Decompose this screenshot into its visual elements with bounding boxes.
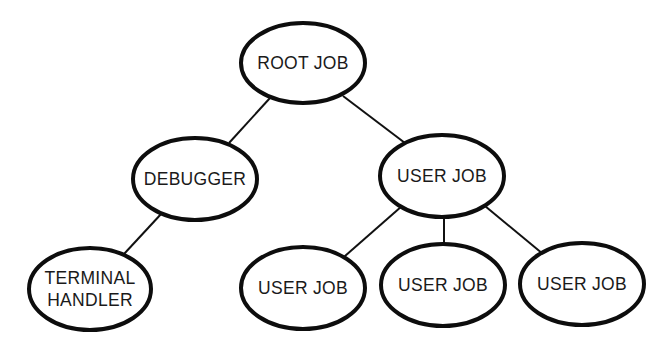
edge-root-to-user-job-main: [343, 96, 405, 143]
node-user-job-3: USER JOB: [520, 243, 644, 325]
node-label: USER JOB: [258, 278, 348, 298]
node-user-job-2: USER JOB: [381, 244, 505, 326]
edge-debugger-to-terminal-handler: [124, 213, 162, 254]
node-terminal-handler: TERMINALHANDLER: [29, 248, 151, 330]
job-hierarchy-diagram: ROOT JOBDEBUGGERUSER JOBTERMINALHANDLERU…: [0, 0, 667, 348]
node-user-job-main: USER JOB: [380, 135, 504, 217]
node-label: TERMINAL: [45, 268, 136, 288]
node-label: DEBUGGER: [144, 169, 247, 189]
node-label: USER JOB: [398, 275, 488, 295]
edge-root-to-debugger: [229, 98, 270, 143]
node-label: ROOT JOB: [257, 53, 349, 73]
edge-user-job-main-to-user-job-1: [345, 206, 402, 256]
node-root: ROOT JOB: [241, 23, 365, 103]
node-debugger: DEBUGGER: [133, 138, 257, 220]
node-label: HANDLER: [47, 290, 133, 310]
node-label: USER JOB: [537, 274, 627, 294]
node-user-job-1: USER JOB: [241, 247, 365, 329]
nodes: ROOT JOBDEBUGGERUSER JOBTERMINALHANDLERU…: [29, 23, 644, 330]
node-label: USER JOB: [397, 166, 487, 186]
node-ellipse: [29, 248, 151, 330]
edge-user-job-main-to-user-job-3: [485, 206, 543, 254]
